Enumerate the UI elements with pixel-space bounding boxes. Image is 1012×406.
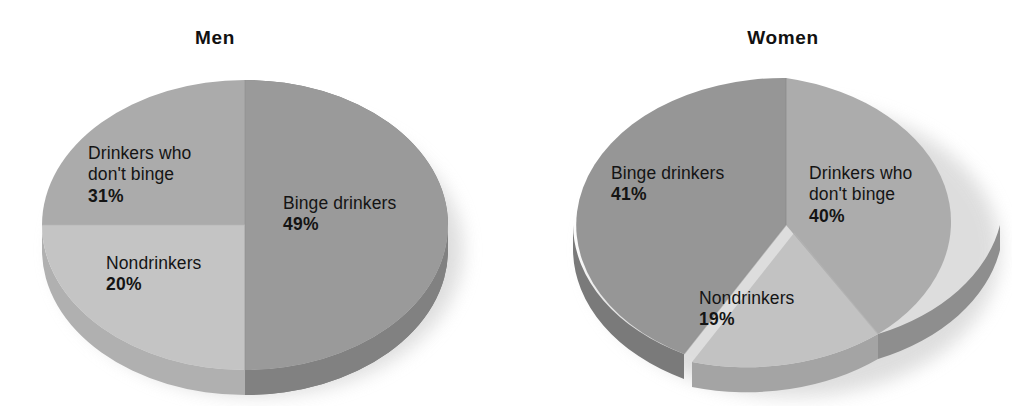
binge-drinking-pie-figure: Men: [0, 0, 1012, 406]
pie-chart-women: Women: [506, 0, 1012, 406]
pie-chart-men: Men: [0, 0, 506, 406]
slice-top-nondrinkers-men: [42, 225, 245, 370]
slice-top-drinkers-men: [42, 80, 245, 225]
pie-graphic-women: [506, 0, 1012, 406]
pie-graphic-men: [0, 0, 506, 406]
